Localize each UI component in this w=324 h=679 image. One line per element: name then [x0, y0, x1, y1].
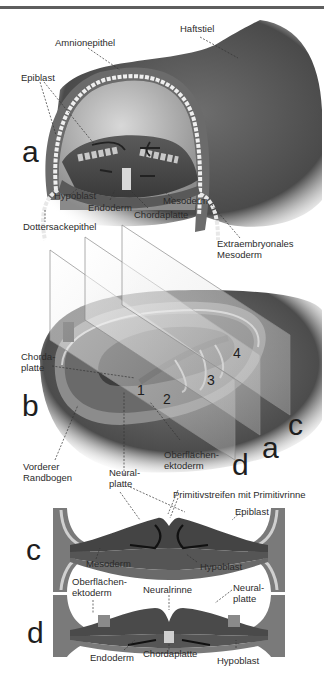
label-mesoderm-a: Mesoderm	[163, 195, 208, 206]
label-endoderm-a: Endoderm	[88, 202, 132, 213]
label-chordaplatte-a: Chordaplatte	[134, 209, 188, 220]
label-epiblast-c: Epiblast	[235, 506, 269, 517]
section-plane-label-d: d	[232, 450, 249, 480]
panel-letter-b: b	[22, 391, 39, 421]
label-hypoblast-c: Hypoblast	[200, 561, 242, 572]
label-vorderer-randbogen: Vorderer Randbogen	[23, 461, 72, 483]
panel-b-illustration	[40, 225, 322, 520]
marker-1: 1	[137, 383, 145, 397]
panel-a-illustration	[40, 20, 322, 240]
label-neuralplatte-b: Neural- platte	[109, 467, 140, 489]
d-left-wall	[53, 595, 90, 657]
label-oberflaechenektoderm-b: Oberflächen- ektoderm	[164, 449, 219, 471]
label-chordaplatte-b: Chorda- platte	[21, 351, 55, 373]
label-neuralrinne: Neuralrinne	[143, 584, 192, 595]
c-epiblast	[70, 518, 268, 552]
panel-letter-a: a	[22, 137, 39, 167]
label-neuralplatte-d: Neural- platte	[233, 582, 264, 604]
label-chordaplatte-d: Chordaplatte	[143, 648, 197, 659]
gastrulation-illustration	[0, 0, 324, 679]
label-dottersackepithel: Dottersackepithel	[23, 221, 96, 232]
d-ectoderm-light-left	[98, 615, 110, 627]
label-haftstiel: Haftstiel	[180, 23, 214, 34]
marker-4: 4	[233, 346, 241, 360]
d-right-wall	[248, 595, 285, 657]
section-plane-label-a: a	[262, 433, 279, 463]
section-plane-label-c: c	[288, 410, 303, 440]
label-oberflaechenektoderm-d: Oberflächen- ektoderm	[72, 576, 127, 598]
marker-2: 2	[163, 392, 171, 406]
label-amnionepithel: Amnionepithel	[55, 37, 115, 48]
marker-3: 3	[207, 373, 215, 387]
label-hypoblast-d: Hypoblast	[217, 655, 259, 666]
label-mesoderm-c: Mesoderm	[86, 558, 131, 569]
label-extraembryonales-mesoderm: Extraembryonales Mesoderm	[217, 238, 294, 260]
panel-letter-c: c	[26, 535, 41, 565]
label-epiblast-a: Epiblast	[21, 72, 55, 83]
d-chordaplatte	[164, 631, 174, 643]
label-hypoblast-a: Hypoblast	[54, 190, 96, 201]
label-primitivstreifen: Primitivstreifen mit Primitivrinne	[173, 489, 306, 500]
label-endoderm-d: Endoderm	[90, 652, 134, 663]
chordaplatte-cells	[122, 168, 131, 190]
panel-letter-d: d	[27, 618, 44, 648]
d-ectoderm-light-right	[228, 615, 240, 627]
